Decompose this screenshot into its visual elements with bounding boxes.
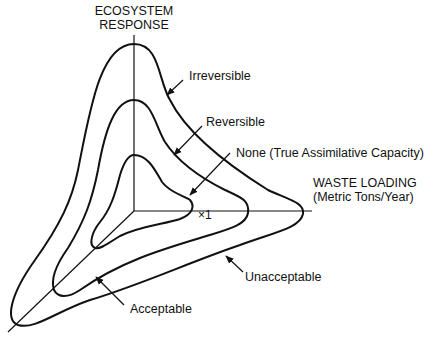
curve-none xyxy=(91,155,192,248)
third-axis-marker: ×1 xyxy=(198,208,212,222)
ecosystem-response-diagram xyxy=(0,0,437,338)
horizontal-axis-label: WASTE LOADING (Metric Tons/Year) xyxy=(313,176,417,204)
label-irreversible: Irreversible xyxy=(189,69,251,83)
vertical-axis-label-line2: RESPONSE xyxy=(92,18,176,32)
vertical-axis-label: ECOSYSTEM RESPONSE xyxy=(92,4,176,32)
label-reversible: Reversible xyxy=(206,115,265,129)
vertical-axis-label-line1: ECOSYSTEM xyxy=(92,4,176,18)
horizontal-axis-label-line2: (Metric Tons/Year) xyxy=(313,190,417,204)
curve-reversible xyxy=(53,100,248,296)
label-none: None (True Assimilative Capacity) xyxy=(236,146,424,160)
label-unacceptable: Unacceptable xyxy=(245,270,321,284)
irreversible-leader xyxy=(167,80,183,95)
horizontal-axis-label-line1: WASTE LOADING xyxy=(313,176,417,190)
label-acceptable: Acceptable xyxy=(130,302,192,316)
unacceptable-leader xyxy=(226,256,243,272)
reversible-leader xyxy=(174,126,202,155)
